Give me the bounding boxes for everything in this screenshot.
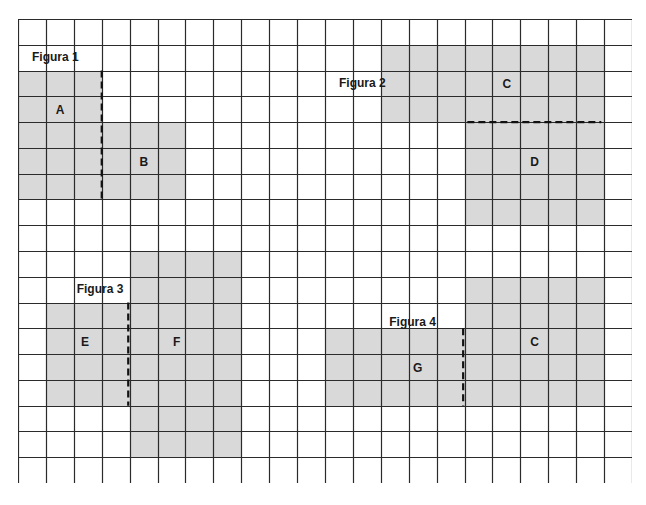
region-label-b: B [140, 156, 149, 168]
cut-lines [18, 19, 632, 483]
region-label-c: C [530, 336, 539, 348]
figure-title: Figura 4 [389, 316, 436, 328]
figure-title: Figura 2 [339, 77, 386, 89]
figure-title: Figura 1 [32, 51, 79, 63]
figure-title: Figura 3 [77, 283, 124, 295]
grid-diagram: ABFigura 1CDFigura 2EFFigura 3GCFigura 4 [18, 19, 632, 483]
region-label-a: A [56, 104, 65, 116]
region-label-d: D [530, 156, 539, 168]
region-label-c: C [502, 78, 511, 90]
region-label-e: E [81, 336, 89, 348]
region-label-g: G [413, 362, 422, 374]
region-label-f: F [173, 336, 180, 348]
